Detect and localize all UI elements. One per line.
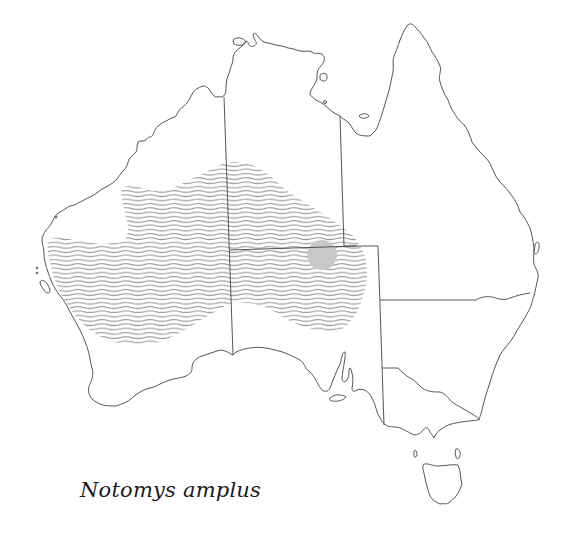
record-locality-marker [307, 240, 337, 270]
australia-map-svg [0, 0, 573, 550]
rottnest-island-2 [36, 272, 38, 274]
groote-eylandt [320, 73, 327, 81]
shark-bay-peninsula [40, 280, 50, 293]
small-island-gulf [324, 101, 327, 104]
fraser-island [534, 242, 539, 254]
distribution-map: Notomys amplus [0, 0, 573, 550]
nsw-vic-border [382, 368, 480, 420]
mornington-island [359, 114, 369, 119]
flinders-island [455, 449, 460, 459]
small-island-wa [55, 216, 57, 218]
rottnest-island-1 [36, 267, 38, 269]
tasmania [423, 464, 462, 504]
qld-nsw-border [380, 293, 530, 300]
melville-island [233, 38, 246, 45]
species-caption: Notomys amplus [80, 478, 261, 502]
sa-east-border [378, 246, 384, 425]
kangaroo-island [329, 395, 346, 401]
king-island [414, 450, 417, 457]
